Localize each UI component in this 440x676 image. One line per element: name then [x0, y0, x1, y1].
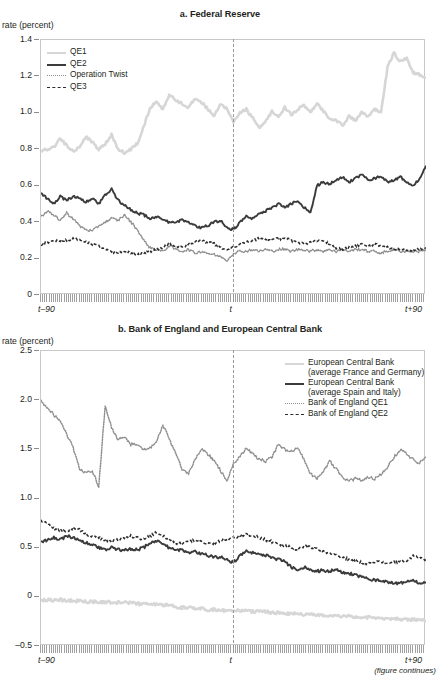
y-tick-label: 1.0: [0, 492, 32, 502]
y-tick-mark: [34, 39, 39, 40]
legend-swatch-solid-grey-icon: [285, 358, 304, 368]
legend-item-label: QE1: [70, 47, 87, 57]
x-tick-label: t: [230, 655, 232, 665]
legend-swatch-solid-grey-icon: [47, 47, 66, 57]
y-tick-label: 1.0: [0, 106, 32, 116]
y-tick-label: 2.5: [0, 345, 32, 355]
legend-swatch-dashed-icon: [47, 82, 66, 92]
legend-item: QE1: [47, 47, 128, 57]
y-tick-label: 1.4: [0, 34, 32, 44]
y-tick-mark: [34, 112, 39, 113]
y-tick-label: –0.5: [0, 640, 32, 650]
panel-b-title: b. Bank of England and European Central …: [0, 324, 440, 334]
panel-a-x-tickband: [40, 294, 425, 302]
series-line: [41, 535, 426, 584]
panel-b-x-tickband: [40, 645, 425, 653]
legend-item: QE3: [47, 82, 128, 92]
y-tick-mark: [34, 448, 39, 449]
legend-item-label: Bank of England QE1: [308, 398, 388, 408]
panel-b-event-line: [233, 350, 234, 653]
y-tick-mark: [34, 75, 39, 76]
y-tick-mark: [34, 498, 39, 499]
y-tick-label: 1.5: [0, 443, 32, 453]
panel-b-legend: European Central Bank(average France and…: [285, 358, 424, 420]
panel-a-title: a. Federal Reserve: [0, 9, 440, 19]
figure-continues-note: (figure continues): [374, 666, 436, 675]
legend-item-label: Bank of England QE2: [308, 409, 388, 419]
y-tick-mark: [34, 185, 39, 186]
y-tick-mark: [34, 596, 39, 597]
legend-item-label: QE3: [70, 82, 87, 92]
y-tick-mark: [34, 547, 39, 548]
y-tick-label: 0.5: [0, 541, 32, 551]
y-tick-label: 2.0: [0, 394, 32, 404]
series-line: [41, 238, 426, 256]
y-tick-mark: [34, 294, 39, 295]
y-tick-label: 0.2: [0, 252, 32, 262]
y-tick-mark: [34, 350, 39, 351]
legend-swatch-dotted-icon: [47, 70, 66, 80]
legend-item: European Central Bank(average Spain and …: [285, 378, 424, 397]
panel-federal-reserve: a. Federal Reserve rate (percent) 1.41.2…: [0, 0, 440, 322]
legend-swatch-solid-dark-icon: [47, 59, 66, 69]
legend-item-sublabel: (average Spain and Italy): [308, 387, 401, 397]
y-tick-mark: [34, 645, 39, 646]
y-tick-mark: [34, 258, 39, 259]
x-tick-label: t: [230, 304, 232, 314]
legend-item: Bank of England QE2: [285, 409, 424, 419]
panel-boe-ecb: b. Bank of England and European Central …: [0, 322, 440, 676]
y-tick-mark: [34, 221, 39, 222]
legend-item: QE2: [47, 59, 128, 69]
y-tick-label: 1.2: [0, 70, 32, 80]
legend-item-sublabel: (average France and Germany): [308, 367, 424, 377]
y-tick-mark: [34, 148, 39, 149]
x-tick-label: t–90: [38, 304, 55, 314]
series-line: [41, 520, 426, 565]
y-tick-label: 0.6: [0, 179, 32, 189]
legend-item: Bank of England QE1: [285, 398, 424, 408]
series-line: [41, 599, 426, 622]
legend-item-label: European Central Bank(average Spain and …: [308, 378, 401, 397]
y-tick-mark: [34, 399, 39, 400]
legend-item: Operation Twist: [47, 70, 128, 80]
y-tick-label: 0: [0, 289, 32, 299]
legend-swatch-dashed-icon: [285, 409, 304, 419]
legend-item: European Central Bank(average France and…: [285, 358, 424, 377]
series-line: [41, 211, 426, 261]
panel-a-y-axis-label: rate (percent): [2, 20, 54, 30]
x-tick-label: t–90: [38, 655, 55, 665]
y-tick-label: 0.8: [0, 143, 32, 153]
series-line: [41, 166, 426, 230]
legend-item-label: European Central Bank(average France and…: [308, 358, 424, 377]
y-tick-label: 0: [0, 590, 32, 600]
x-tick-label: t+90: [405, 304, 422, 314]
panel-a-event-line: [233, 39, 234, 302]
legend-item-label: Operation Twist: [70, 70, 128, 80]
panel-a-legend: QE1QE2Operation TwistQE3: [47, 47, 128, 93]
legend-swatch-dotted-icon: [285, 398, 304, 408]
x-tick-label: t+90: [405, 655, 422, 665]
legend-item-label: QE2: [70, 59, 87, 69]
y-tick-label: 0.4: [0, 216, 32, 226]
legend-swatch-solid-dark-icon: [285, 378, 304, 388]
